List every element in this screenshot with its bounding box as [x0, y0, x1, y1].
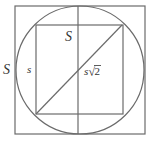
label-inner-side: s	[27, 63, 31, 75]
label-top-side: S	[65, 29, 72, 44]
label-diagonal: s √ 2	[84, 65, 101, 79]
label-diagonal-two: 2	[95, 65, 101, 77]
diagonal-line	[36, 25, 122, 114]
label-outer-side: S	[3, 62, 10, 77]
geometry-diagram: S S s s √ 2	[0, 0, 156, 142]
